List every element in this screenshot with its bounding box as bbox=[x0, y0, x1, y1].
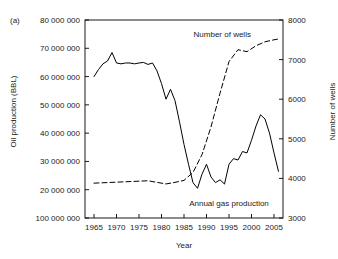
figure-panel-a: (a) Oil production (BBL) Number of wells… bbox=[0, 0, 338, 259]
wells-annotation: Number of wells bbox=[194, 29, 251, 38]
plot-area bbox=[0, 0, 338, 259]
plot-frame bbox=[85, 20, 283, 218]
series-line-0 bbox=[94, 53, 279, 189]
gas-annotation: Annual gas production bbox=[189, 199, 269, 208]
series-line-1 bbox=[94, 39, 279, 184]
